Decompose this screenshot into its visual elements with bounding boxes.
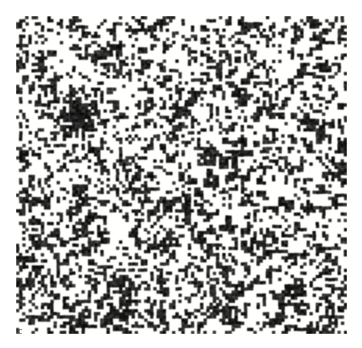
panel-label: c <box>18 326 23 336</box>
binary-pattern-region <box>16 16 347 334</box>
figure-panel: c <box>0 0 362 348</box>
binary-pattern-canvas <box>16 16 347 334</box>
